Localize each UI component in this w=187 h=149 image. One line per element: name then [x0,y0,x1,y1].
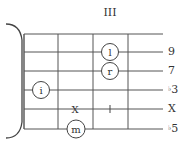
interval-number: 3 [171,83,178,96]
mute-marker: X [71,104,79,115]
svg-text:m: m [71,124,81,135]
finger-marker-i: i [33,82,50,99]
interval-label-string-2: 9 [168,46,186,58]
interval-label-string-5: X [168,103,186,115]
fret-position-label: III [98,6,122,19]
interval-label-string-6: ♭5 [168,123,186,135]
interval-number: 5 [171,122,178,135]
flat-sign: ♭ [168,85,171,93]
finger-marker-l: l [102,44,119,61]
interval-label-string-3: 7 [168,65,186,77]
svg-text:i: i [39,85,42,96]
finger-marker-r: r [102,63,119,80]
nut-bracket [6,24,22,138]
svg-text:l: l [108,47,111,58]
interval-label-string-4: ♭3 [168,84,186,96]
svg-text:r: r [108,66,113,77]
finger-marker-m: m [67,120,85,138]
fretboard: i l r m X [0,0,187,149]
flat-sign: ♭ [168,124,171,132]
